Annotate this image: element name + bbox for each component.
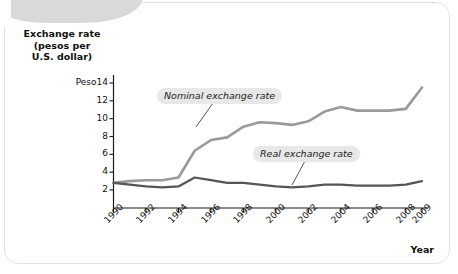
series-annotation-label: Nominal exchange rate <box>157 88 282 104</box>
x-axis-title: Year <box>410 244 434 255</box>
y-tick-label: 2 <box>60 184 108 194</box>
annotation-leader-lines <box>196 103 305 185</box>
y-tick-label: 10 <box>60 113 108 123</box>
y-tick-label: Peso14 <box>60 77 108 87</box>
annotation-leader-line <box>292 161 305 185</box>
y-tick-label: 8 <box>60 131 108 141</box>
y-tick-label: 6 <box>60 148 108 158</box>
annotation-leader-line <box>196 103 213 127</box>
series-annotation-label: Real exchange rate <box>253 146 360 162</box>
chart-figure: Exchange rate(pesos perU.S. dollar) Peso… <box>0 0 458 274</box>
y-tick-label: 4 <box>60 166 108 176</box>
y-tick-label: 12 <box>60 95 108 105</box>
